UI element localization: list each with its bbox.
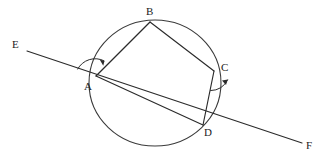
- geometry-figure: A B C D E F: [0, 0, 327, 162]
- endpoint-label-e: E: [12, 39, 19, 50]
- vertex-label-b: B: [146, 6, 153, 17]
- segment-ab: [96, 22, 150, 76]
- segment-cd: [203, 71, 214, 125]
- circumscribed-circle: [89, 20, 221, 146]
- vertex-label-a: A: [84, 81, 92, 92]
- geometry-canvas: [0, 0, 327, 162]
- segment-bc: [150, 22, 214, 71]
- vertex-label-d: D: [204, 127, 212, 138]
- segment-ad: [96, 76, 203, 125]
- vertex-label-c: C: [221, 62, 228, 73]
- endpoint-label-f: F: [306, 140, 312, 151]
- line-ef: [27, 51, 302, 143]
